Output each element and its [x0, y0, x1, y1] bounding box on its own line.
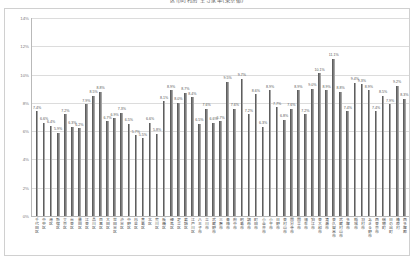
bar[interactable] [368, 90, 371, 216]
bar[interactable] [120, 113, 123, 216]
bar-item[interactable]: 8.9% [323, 18, 330, 216]
bar-item[interactable]: 8.7% [182, 18, 189, 216]
bar[interactable] [92, 96, 95, 216]
bar-item[interactable]: 8.0% [175, 18, 182, 216]
bar[interactable] [248, 114, 251, 216]
bar[interactable] [396, 86, 399, 216]
bar[interactable] [205, 109, 208, 216]
bar[interactable] [332, 59, 335, 216]
bar[interactable] [339, 92, 342, 216]
bar[interactable] [304, 114, 307, 216]
bar-item[interactable]: 7.3% [118, 18, 125, 216]
bar-item[interactable]: 8.6% [252, 18, 259, 216]
bar-item[interactable]: 9.0% [309, 18, 316, 216]
bar[interactable] [276, 107, 279, 216]
bar-item[interactable]: 8.5% [380, 18, 387, 216]
x-axis-category-label: 小平市 [268, 218, 272, 261]
bar-item[interactable]: 5.8% [154, 18, 161, 216]
bar[interactable] [219, 121, 222, 216]
bar[interactable] [163, 101, 166, 216]
bar-item[interactable]: 9.7% [238, 18, 245, 216]
bar[interactable] [354, 83, 357, 216]
bar-item[interactable]: 11.1% [330, 18, 337, 216]
bar-item[interactable]: 6.4% [48, 18, 55, 216]
bar[interactable] [255, 94, 258, 216]
bar[interactable] [191, 97, 194, 216]
bar-item[interactable]: 7.4% [344, 18, 351, 216]
bar[interactable] [297, 90, 300, 216]
bar[interactable] [233, 109, 236, 216]
bar[interactable] [57, 133, 60, 216]
bar[interactable] [283, 120, 286, 216]
bar-item[interactable]: 9.4% [351, 18, 358, 216]
bar-item[interactable]: 8.9% [168, 18, 175, 216]
bar-item[interactable]: 9.3% [358, 18, 365, 216]
bar[interactable] [290, 109, 293, 216]
bar[interactable] [36, 111, 39, 216]
bar-item[interactable]: 9.5% [224, 18, 231, 216]
bar-item[interactable]: 8.8% [337, 18, 344, 216]
bar-item[interactable]: 7.9% [387, 18, 394, 216]
bar-item[interactable]: 7.6% [288, 18, 295, 216]
bar-item[interactable]: 10.1% [316, 18, 323, 216]
bar[interactable] [85, 104, 88, 216]
bar[interactable] [318, 73, 321, 216]
bar[interactable] [269, 90, 272, 216]
bar[interactable] [142, 138, 145, 216]
bar-item[interactable]: 6.5% [196, 18, 203, 216]
bar[interactable] [71, 127, 74, 216]
bar[interactable] [170, 90, 173, 216]
bar-item[interactable]: 5.7% [132, 18, 139, 216]
bar-item[interactable]: 6.6% [147, 18, 154, 216]
bar[interactable] [128, 124, 131, 216]
bar-item[interactable]: 5.9% [55, 18, 62, 216]
bar-item[interactable]: 8.9% [267, 18, 274, 216]
bar[interactable] [212, 123, 215, 216]
bar-item[interactable]: 6.2% [76, 18, 83, 216]
bar-item[interactable]: 6.8% [281, 18, 288, 216]
bar[interactable] [135, 135, 138, 216]
bar[interactable] [149, 123, 152, 216]
bar[interactable] [403, 99, 406, 216]
bar-item[interactable]: 7.2% [62, 18, 69, 216]
bar-item[interactable]: 9.2% [394, 18, 401, 216]
bar[interactable] [50, 126, 53, 217]
bar-item[interactable]: 7.2% [302, 18, 309, 216]
bar[interactable] [262, 127, 265, 216]
bar[interactable] [64, 114, 67, 216]
bar[interactable] [99, 92, 102, 216]
bar-item[interactable]: 7.9% [83, 18, 90, 216]
bar[interactable] [113, 118, 116, 216]
bar-item[interactable]: 6.6% [41, 18, 48, 216]
bar[interactable] [78, 128, 81, 216]
bar-item[interactable]: 8.1% [161, 18, 168, 216]
bar-item[interactable]: 6.5% [125, 18, 132, 216]
bar[interactable] [311, 89, 314, 216]
bar[interactable] [389, 104, 392, 216]
bar[interactable] [106, 121, 109, 216]
bar-item[interactable]: 8.3% [401, 18, 408, 216]
bar[interactable] [156, 134, 159, 216]
bar[interactable] [382, 96, 385, 216]
bar-item[interactable]: 7.2% [245, 18, 252, 216]
bar[interactable] [375, 111, 378, 216]
bar-item[interactable]: 7.6% [231, 18, 238, 216]
bar[interactable] [198, 124, 201, 216]
bar[interactable] [184, 93, 187, 216]
bar[interactable] [241, 79, 244, 216]
bar[interactable] [177, 103, 180, 216]
bar-item[interactable]: 6.7% [217, 18, 224, 216]
bar[interactable] [325, 90, 328, 216]
bar-item[interactable]: 8.9% [295, 18, 302, 216]
bar-item[interactable]: 8.5% [90, 18, 97, 216]
bar-item[interactable]: 6.3% [260, 18, 267, 216]
bar[interactable] [43, 123, 46, 216]
bar[interactable] [346, 111, 349, 216]
bar-item[interactable]: 6.9% [111, 18, 118, 216]
bar-item[interactable]: 7.4% [373, 18, 380, 216]
bar-item[interactable]: 6.3% [69, 18, 76, 216]
bar-item[interactable]: 8.4% [189, 18, 196, 216]
bar[interactable] [361, 84, 364, 216]
bar[interactable] [226, 82, 229, 216]
bar-item[interactable]: 8.9% [365, 18, 372, 216]
